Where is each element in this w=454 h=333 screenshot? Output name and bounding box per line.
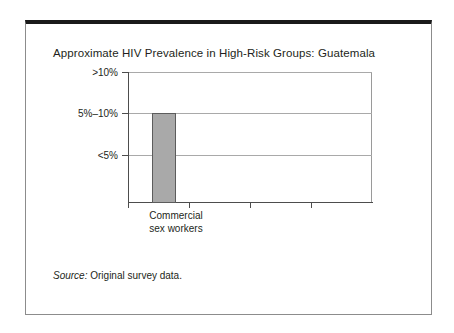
y-axis-label-gt-10: >10%	[92, 67, 118, 78]
x-axis-label-commercial-sex-workers: Commercial sex workers	[128, 210, 224, 235]
bar-commercial-sex-workers	[152, 113, 176, 203]
y-axis-label-lt-5: <5%	[98, 150, 118, 161]
plot-wrapper: Approximate HIV Prevalence in High-Risk …	[25, 20, 432, 315]
source-note-label: Source:	[53, 270, 87, 281]
x-tick-1	[189, 203, 190, 208]
x-tick-3	[311, 203, 312, 208]
x-tick-2	[250, 203, 251, 208]
y-tick-5-to-10	[122, 113, 129, 114]
x-tick-0	[128, 203, 129, 208]
y-tick-lt-5	[122, 155, 129, 156]
chart-title: Approximate HIV Prevalence in High-Risk …	[53, 47, 375, 59]
source-note: Source: Original survey data.	[53, 270, 182, 281]
y-tick-gt-10	[122, 72, 129, 73]
source-note-text: Original survey data.	[87, 270, 182, 281]
y-axis-line	[128, 72, 129, 203]
x-axis-label-line-1: Commercial	[128, 210, 224, 223]
x-axis-label-line-2: sex workers	[128, 223, 224, 236]
gridline-gt-10	[128, 72, 372, 73]
y-axis-label-5-to-10: 5%–10%	[78, 108, 118, 119]
